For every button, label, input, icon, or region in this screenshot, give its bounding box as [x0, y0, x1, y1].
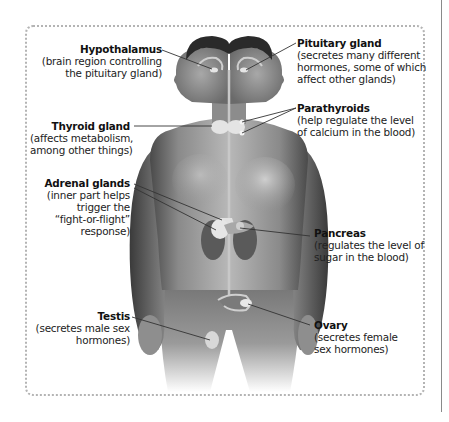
label-ovary: Ovary (secretes female sex hormones)	[314, 319, 426, 355]
label-title: Parathyroids	[297, 102, 425, 114]
label-hypothalamus: Hypothalamus (brain region controlling t…	[40, 43, 162, 79]
label-adrenal: Adrenal glands (inner part helps trigger…	[30, 177, 130, 237]
label-title: Thyroid gland	[30, 120, 130, 132]
label-thyroid: Thyroid gland (affects metabolism, among…	[30, 120, 130, 156]
label-parathyroids: Parathyroids (help regulate the level of…	[297, 102, 425, 138]
label-title: Pituitary gland	[297, 37, 425, 49]
label-desc: (secretes female sex hormones)	[314, 331, 426, 355]
label-title: Testis	[30, 310, 130, 322]
label-desc: (secretes male sex hormones)	[30, 322, 130, 346]
label-desc: (secretes many different hormones, some …	[297, 49, 425, 85]
label-desc: (affects metabolism, among other things)	[30, 132, 130, 156]
label-pancreas: Pancreas (regulates the level of sugar i…	[314, 227, 426, 263]
label-title: Pancreas	[314, 227, 426, 239]
label-desc: (regulates the level of sugar in the blo…	[314, 239, 426, 263]
label-pituitary: Pituitary gland (secretes many different…	[297, 37, 425, 85]
label-desc: (help regulate the level of calcium in t…	[297, 114, 425, 138]
label-title: Ovary	[314, 319, 426, 331]
label-testis: Testis (secretes male sex hormones)	[30, 310, 130, 346]
label-desc: (brain region controlling the pituitary …	[40, 55, 162, 79]
label-title: Hypothalamus	[40, 43, 162, 55]
label-title: Adrenal glands	[30, 177, 130, 189]
label-desc: (inner part helps trigger the “fight-or-…	[30, 189, 130, 237]
